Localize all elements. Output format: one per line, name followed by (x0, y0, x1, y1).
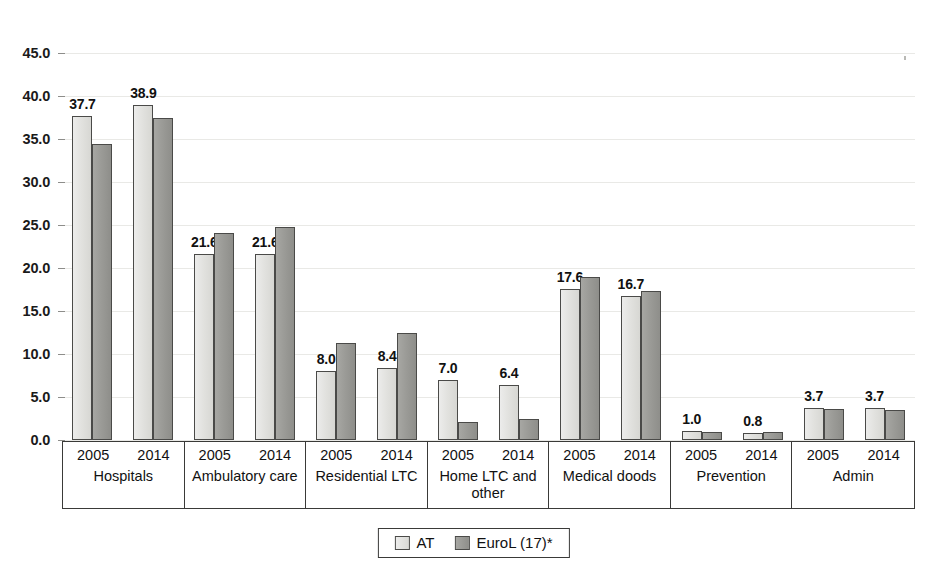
y-axis-tick-label: 30.0 (0, 174, 50, 190)
bar-eurol (214, 233, 234, 440)
x-axis-year-row: 20052014 (185, 442, 306, 468)
bar-at (72, 116, 92, 440)
x-axis-year-label: 2005 (549, 447, 609, 463)
y-axis-tick-label: 45.0 (0, 45, 50, 61)
bar-value-label: 6.4 (500, 365, 519, 381)
x-axis-year-label: 2014 (366, 447, 426, 463)
bar-eurol (824, 409, 844, 440)
x-axis-year-row: 20052014 (671, 442, 792, 468)
bar-chart: 37.738.921.621.68.08.47.06.417.616.71.00… (0, 0, 947, 587)
y-axis-tick-label: 40.0 (0, 88, 50, 104)
legend-item: AT (394, 534, 434, 551)
y-axis-tick-label: 0.0 (0, 432, 50, 448)
x-axis-year-label: 2005 (428, 447, 488, 463)
bar-value-label: 0.8 (743, 413, 762, 429)
bar-at (438, 380, 458, 440)
gridline (62, 354, 915, 355)
x-axis-group: 20052014Hospitals (63, 442, 185, 508)
bar-at (133, 105, 153, 440)
gridline (62, 225, 915, 226)
bar-eurol (153, 118, 173, 441)
x-axis-year-label: 2014 (123, 447, 183, 463)
x-axis-group: 20052014Prevention (671, 442, 793, 508)
x-axis-group: 20052014Ambulatory care (185, 442, 307, 508)
x-axis-year-label: 2005 (792, 447, 853, 463)
y-tick-mark (58, 268, 65, 269)
dark-gray-swatch (454, 536, 469, 550)
x-axis-year-label: 2014 (488, 447, 548, 463)
y-tick-mark (58, 139, 65, 140)
bar-eurol (397, 333, 417, 441)
bar-value-label: 3.7 (865, 388, 884, 404)
bar-at (377, 368, 397, 440)
bar-at (194, 254, 214, 440)
y-axis-tick-label: 15.0 (0, 303, 50, 319)
bar-value-label: 7.0 (439, 360, 458, 376)
gridline (62, 268, 915, 269)
y-tick-mark (58, 397, 65, 398)
gridline (62, 182, 915, 183)
legend-label: EuroL (17)* (476, 534, 552, 551)
x-axis-year-row: 20052014 (792, 442, 914, 468)
bar-value-label: 16.7 (618, 276, 644, 292)
bar-at (255, 254, 275, 440)
bar-eurol (519, 419, 539, 440)
x-axis-category-label: Home LTC and other (428, 468, 549, 508)
x-axis-year-row: 20052014 (306, 442, 427, 468)
legend-label: AT (416, 534, 434, 551)
bar-at (560, 289, 580, 440)
bar-at (743, 433, 763, 440)
gridline (62, 311, 915, 312)
y-tick-mark (58, 440, 65, 441)
bar-value-label: 3.7 (804, 388, 823, 404)
y-tick-mark (58, 53, 65, 54)
x-axis: 20052014Hospitals20052014Ambulatory care… (62, 441, 915, 509)
x-axis-group: 20052014Residential LTC (306, 442, 428, 508)
y-axis-tick-label: 20.0 (0, 260, 50, 276)
x-axis-year-row: 20052014 (549, 442, 670, 468)
bar-eurol (885, 410, 905, 440)
y-axis-tick-label: 35.0 (0, 131, 50, 147)
x-axis-group: 20052014Medical doods (549, 442, 671, 508)
bar-at (804, 408, 824, 440)
bar-value-label: 1.0 (682, 411, 701, 427)
bar-value-label: 8.0 (317, 351, 336, 367)
y-tick-mark (58, 96, 65, 97)
x-axis-year-label: 2005 (671, 447, 731, 463)
x-axis-year-row: 20052014 (428, 442, 549, 468)
y-axis-tick-label: 10.0 (0, 346, 50, 362)
gridline (62, 397, 915, 398)
bar-at (682, 431, 702, 440)
bar-eurol (336, 343, 356, 440)
x-axis-category-label: Residential LTC (306, 468, 427, 508)
x-axis-category-label: Prevention (671, 468, 792, 508)
x-axis-year-row: 20052014 (63, 442, 184, 468)
gridline (62, 53, 915, 54)
gridline (62, 96, 915, 97)
bar-eurol (458, 422, 478, 440)
x-axis-year-label: 2005 (63, 447, 123, 463)
chart-legend: ATEuroL (17)* (377, 528, 569, 558)
x-axis-year-label: 2014 (731, 447, 791, 463)
y-tick-mark (58, 311, 65, 312)
x-axis-category-label: Medical doods (549, 468, 670, 508)
bar-value-label: 38.9 (130, 85, 156, 101)
bar-eurol (275, 227, 295, 440)
bar-value-label: 37.7 (69, 96, 95, 112)
x-axis-year-label: 2014 (245, 447, 305, 463)
x-axis-group: 20052014Home LTC and other (428, 442, 550, 508)
bar-eurol (641, 291, 661, 440)
bar-eurol (92, 144, 112, 440)
legend-item: EuroL (17)* (454, 534, 552, 551)
y-axis-tick-label: 25.0 (0, 217, 50, 233)
x-axis-year-label: 2014 (610, 447, 670, 463)
x-axis-year-label: 2005 (185, 447, 245, 463)
x-axis-category-label: Ambulatory care (185, 468, 306, 508)
light-gray-swatch (394, 536, 409, 550)
plot-area: 37.738.921.621.68.08.47.06.417.616.71.00… (62, 53, 915, 440)
bar-value-label: 8.4 (378, 348, 397, 364)
x-axis-category-label: Hospitals (63, 468, 184, 508)
gridline (62, 139, 915, 140)
y-axis-tick-label: 5.0 (0, 389, 50, 405)
y-tick-mark (58, 182, 65, 183)
